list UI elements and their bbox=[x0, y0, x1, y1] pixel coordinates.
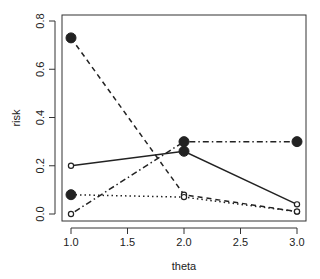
x-tick-label: 1.5 bbox=[120, 236, 135, 248]
plot-box bbox=[62, 15, 306, 221]
x-tick-label: 1.0 bbox=[63, 236, 78, 248]
series-dashed-point bbox=[66, 33, 76, 43]
series-solid-point bbox=[68, 163, 73, 168]
line-chart: 0.00.20.40.60.8 1.01.52.02.53.0 theta ri… bbox=[0, 0, 320, 279]
series-dotdash-point bbox=[179, 137, 189, 147]
series-dotted-point bbox=[66, 190, 76, 200]
x-tick-label: 2.5 bbox=[233, 236, 248, 248]
y-axis-label: risk bbox=[10, 109, 22, 127]
x-tick-label: 3.0 bbox=[289, 236, 304, 248]
series-dotted-point bbox=[294, 209, 299, 214]
y-tick-label: 0.0 bbox=[34, 206, 46, 221]
x-axis: 1.01.52.02.53.0 bbox=[63, 228, 304, 248]
series-dashed-line bbox=[71, 38, 297, 212]
y-tick-label: 0.4 bbox=[34, 110, 46, 125]
series-dotted-point bbox=[181, 195, 186, 200]
series-solid-point bbox=[179, 146, 189, 156]
series-dotdash-point bbox=[292, 137, 302, 147]
series-group bbox=[66, 33, 302, 217]
y-tick-label: 0.2 bbox=[34, 158, 46, 173]
y-tick-label: 0.8 bbox=[34, 13, 46, 28]
x-axis-label: theta bbox=[172, 260, 197, 272]
x-tick-label: 2.0 bbox=[176, 236, 191, 248]
y-tick-label: 0.6 bbox=[34, 62, 46, 77]
series-solid-point bbox=[294, 202, 299, 207]
y-axis: 0.00.20.40.60.8 bbox=[34, 13, 55, 221]
series-dotdash-point bbox=[68, 211, 73, 216]
